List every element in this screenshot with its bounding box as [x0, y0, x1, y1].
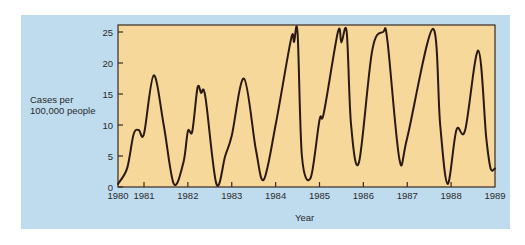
x-tick-label: 1988 [441, 190, 462, 201]
y-tick-label: 10 [102, 120, 113, 131]
y-tick-label: 25 [102, 27, 113, 38]
x-tick-label: 1984 [265, 190, 286, 201]
x-tick-label: 1981 [133, 190, 154, 201]
y-tick-label: 5 [108, 151, 113, 162]
x-tick-label: 1987 [397, 190, 418, 201]
x-tick-label: 1985 [309, 190, 330, 201]
x-tick-label: 1986 [353, 190, 374, 201]
x-tick-label: 1989 [484, 190, 505, 201]
y-tick-label: 15 [102, 89, 113, 100]
line-chart: 0510152025 19801981198219831984198519861… [0, 0, 525, 245]
y-tick-label: 20 [102, 58, 113, 69]
x-tick-label: 1982 [177, 190, 198, 201]
x-tick-label: 1980 [107, 190, 128, 201]
x-tick-label: 1983 [221, 190, 242, 201]
